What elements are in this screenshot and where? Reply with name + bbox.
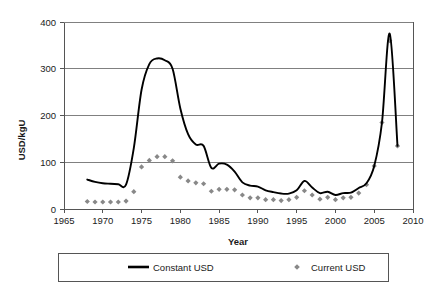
y-tick-label-200: 200	[40, 110, 56, 121]
x-tick-label-2010: 2010	[402, 215, 423, 226]
x-tick-label-1985: 1985	[209, 215, 230, 226]
x-tick-label-2005: 2005	[364, 215, 385, 226]
x-tick-label-1975: 1975	[131, 215, 152, 226]
chart-background	[0, 0, 440, 289]
price-chart: 0100200300400 19651970197519801985199019…	[0, 0, 440, 289]
x-tick-label-1995: 1995	[286, 215, 307, 226]
y-axis-title: USD/kgU	[16, 120, 27, 161]
x-tick-label-1965: 1965	[53, 215, 74, 226]
y-tick-label-100: 100	[40, 157, 56, 168]
y-tick-label-0: 0	[51, 204, 56, 215]
y-tick-label-300: 300	[40, 63, 56, 74]
x-tick-label-1990: 1990	[247, 215, 268, 226]
y-tick-label-400: 400	[40, 17, 56, 28]
chart-container: 0100200300400 19651970197519801985199019…	[0, 0, 440, 289]
legend-label-0: Constant USD	[153, 262, 214, 273]
x-tick-label-1980: 1980	[170, 215, 191, 226]
x-tick-label-2000: 2000	[325, 215, 346, 226]
legend-label-1: Current USD	[311, 262, 366, 273]
x-tick-label-1970: 1970	[92, 215, 113, 226]
x-axis-title: Year	[228, 236, 248, 247]
